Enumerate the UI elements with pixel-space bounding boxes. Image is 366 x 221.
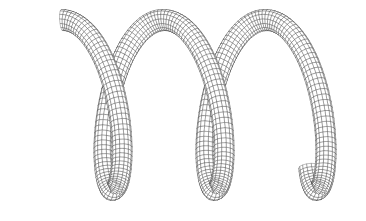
mesh-face <box>324 151 329 155</box>
mesh-face <box>117 113 122 119</box>
mesh-face <box>115 164 119 168</box>
mesh-face <box>216 96 222 102</box>
mesh-face <box>118 118 123 124</box>
mesh-face <box>321 111 326 117</box>
mesh-face <box>217 101 222 107</box>
mesh-face <box>204 155 209 159</box>
mesh-face <box>116 153 120 158</box>
mesh-face <box>221 128 226 133</box>
mesh-face <box>209 163 213 167</box>
mesh-face <box>204 150 209 154</box>
mesh-face <box>102 135 107 140</box>
mesh-face <box>99 120 104 126</box>
mesh-face <box>200 136 204 141</box>
mesh-face <box>221 160 226 164</box>
mesh-face <box>323 166 328 170</box>
mesh-face <box>123 129 128 135</box>
mesh-face <box>226 138 230 143</box>
mesh-face <box>116 144 120 149</box>
mesh-face <box>98 130 102 136</box>
mesh-face <box>317 94 323 100</box>
mesh-face <box>102 149 107 154</box>
mesh-face <box>201 121 206 127</box>
mesh-face <box>98 135 102 141</box>
mesh-face <box>323 159 328 163</box>
mesh-face <box>102 145 106 150</box>
mesh-face <box>267 24 269 28</box>
mesh-face <box>118 124 123 130</box>
mesh-face <box>323 126 328 131</box>
mesh-face <box>115 168 119 171</box>
mesh-face <box>208 141 212 146</box>
mesh-face <box>221 164 226 168</box>
mesh-face <box>200 141 204 146</box>
mesh-face <box>204 136 209 141</box>
mesh-face <box>319 163 323 167</box>
mesh-face <box>323 137 328 142</box>
mesh-face <box>107 162 111 166</box>
mesh-face <box>206 110 211 116</box>
mesh-face <box>103 114 108 120</box>
mesh-face <box>319 159 323 163</box>
mesh-face <box>204 126 209 132</box>
mesh-face <box>204 141 208 146</box>
mesh-face <box>120 144 125 149</box>
mesh-face <box>324 155 329 159</box>
mesh-face <box>323 132 328 137</box>
mesh-face <box>222 156 227 160</box>
mesh-face <box>60 19 63 24</box>
mesh-face <box>319 166 323 169</box>
mesh-face <box>114 97 119 103</box>
mesh-face <box>225 122 230 128</box>
mesh-face <box>324 141 329 146</box>
mesh-face <box>220 122 225 128</box>
mesh-face <box>218 156 222 160</box>
mesh-face <box>328 146 332 151</box>
mesh-face <box>208 146 212 151</box>
mesh-face <box>102 154 107 158</box>
mesh-face <box>103 162 108 166</box>
mesh-face <box>116 108 121 114</box>
mesh-face <box>208 155 212 160</box>
mesh-face <box>318 170 323 173</box>
mesh-face <box>119 161 124 165</box>
mesh-face <box>200 131 204 137</box>
mesh-face <box>204 159 209 163</box>
mesh-face <box>205 116 210 122</box>
mesh-face <box>259 14 262 19</box>
mesh-face <box>323 163 328 167</box>
mesh-face <box>116 157 120 161</box>
mesh-face <box>311 163 315 167</box>
mesh-face <box>158 14 161 19</box>
mesh-face <box>321 116 326 122</box>
mesh-face <box>124 148 128 153</box>
mesh-face <box>319 100 325 106</box>
mesh-face <box>216 173 221 176</box>
mesh-face <box>114 174 118 177</box>
mesh-face <box>226 143 230 148</box>
mesh-face <box>124 144 128 149</box>
mesh-face <box>217 164 221 168</box>
mesh-face <box>216 170 221 173</box>
mesh-face <box>328 141 332 146</box>
mesh-face <box>322 121 327 127</box>
mesh-face <box>98 140 102 145</box>
mesh-face <box>106 154 110 159</box>
mesh-face <box>318 172 323 175</box>
mesh-face <box>98 145 102 150</box>
mesh-face <box>115 102 120 108</box>
mesh-face <box>114 171 119 174</box>
mesh-face <box>158 11 162 15</box>
mesh-face <box>219 112 224 118</box>
mesh-face <box>119 129 124 134</box>
mesh-face <box>209 159 213 163</box>
mesh-face <box>320 151 324 156</box>
mesh-face <box>102 125 107 130</box>
mesh-face <box>217 160 221 164</box>
mesh-face <box>208 150 212 155</box>
mesh-face <box>262 14 265 19</box>
mesh-face <box>327 126 332 131</box>
mesh-face <box>320 142 324 147</box>
mesh-face <box>124 139 128 144</box>
mesh-face <box>259 11 263 15</box>
